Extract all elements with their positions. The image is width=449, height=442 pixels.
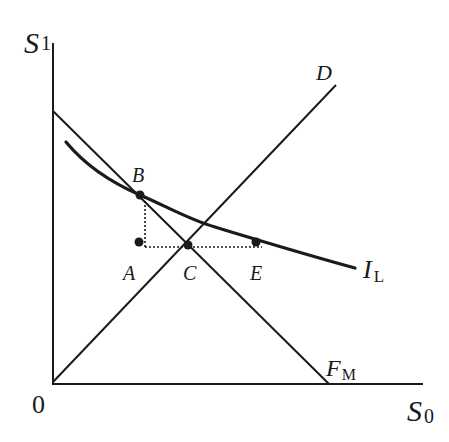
frontier-label-fm: FM <box>325 355 356 383</box>
diagonal-line-d <box>53 85 336 382</box>
y-axis-label: S1 <box>24 26 51 59</box>
diagonal-label-d: D <box>315 60 332 85</box>
origin-label: 0 <box>32 390 45 419</box>
point-a-label: A <box>121 262 136 284</box>
diagram-canvas: S1 S0 0 D FM IL B A C E <box>0 0 449 442</box>
point-b-dot <box>136 191 145 200</box>
point-c-dot <box>184 241 193 250</box>
point-e-label: E <box>249 262 262 284</box>
point-c-label: C <box>183 262 197 284</box>
point-b-label: B <box>132 164 144 186</box>
indifference-label-il: IL <box>362 255 384 286</box>
point-a-dot <box>135 238 144 247</box>
indifference-curve-il <box>66 142 355 268</box>
point-e-dot <box>252 238 261 247</box>
x-axis-label: S0 <box>407 394 434 427</box>
